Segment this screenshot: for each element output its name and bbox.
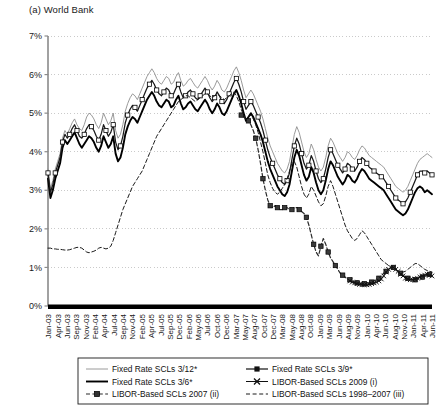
- svg-text:Jun-11: Jun-11: [428, 313, 437, 337]
- svg-text:Oct-06: Oct-06: [213, 313, 222, 338]
- legend-label: Fixed Rate SCLs 3/9*: [272, 364, 353, 374]
- svg-text:Nov-10: Nov-10: [400, 313, 409, 339]
- chart-legend[interactable]: Fixed Rate SCLs 3/12*Fixed Rate SCLs 3/9…: [78, 358, 428, 404]
- svg-text:Sep-05: Sep-05: [166, 313, 175, 339]
- svg-text:Feb-04: Feb-04: [91, 313, 100, 339]
- svg-text:Aug-10: Aug-10: [391, 313, 400, 339]
- svg-text:5%: 5%: [29, 108, 42, 118]
- legend-label: Fixed Rate SCLs 3/12*: [112, 364, 198, 374]
- svg-text:Jul-05: Jul-05: [157, 313, 166, 335]
- x-axis: Jan-03Apr-03Jun-03Sep-03Nov-03Feb-04Apr-…: [44, 305, 437, 341]
- svg-text:7%: 7%: [29, 31, 42, 41]
- svg-text:Dec-06: Dec-06: [222, 313, 231, 339]
- svg-text:Mar-07: Mar-07: [232, 313, 241, 339]
- svg-text:Feb-06: Feb-06: [185, 313, 194, 339]
- svg-text:Mar-09: Mar-09: [325, 313, 334, 339]
- svg-text:Apr-11: Apr-11: [419, 313, 428, 337]
- svg-text:Nov-09: Nov-09: [353, 313, 362, 339]
- svg-text:2%: 2%: [29, 224, 42, 234]
- svg-text:Sep-04: Sep-04: [119, 313, 128, 339]
- page-title: (a) World Bank: [29, 4, 94, 15]
- legend-label: Fixed Rate SCLs 3/6*: [112, 377, 193, 387]
- svg-text:Feb-05: Feb-05: [138, 313, 147, 339]
- series-2: [46, 76, 434, 206]
- svg-text:Jan-09: Jan-09: [316, 313, 325, 338]
- svg-text:Jan-10: Jan-10: [363, 313, 372, 338]
- svg-text:Aug-09: Aug-09: [344, 313, 353, 339]
- svg-text:Jul-06: Jul-06: [203, 313, 212, 335]
- svg-text:Apr-04: Apr-04: [100, 313, 109, 338]
- svg-text:Jun-03: Jun-03: [63, 313, 72, 338]
- legend-label: LIBOR-Based SCLs 1998–2007 (iii): [272, 389, 404, 399]
- svg-text:Nov-04: Nov-04: [128, 313, 137, 339]
- svg-text:May-06: May-06: [194, 313, 203, 340]
- series-lines: [46, 67, 434, 287]
- svg-text:Mar-08: Mar-08: [278, 313, 287, 339]
- svg-text:Jun-09: Jun-09: [335, 313, 344, 338]
- svg-text:Jun-10: Jun-10: [381, 313, 390, 338]
- legend-label: LIBOR-Based SCLs 2009 (i): [272, 377, 377, 387]
- chart-panel: (a) World Bank 0%1%2%3%4%5%6%7% Jan-03Ap…: [0, 0, 447, 406]
- svg-text:Jan-11: Jan-11: [409, 313, 418, 337]
- svg-text:Aug-08: Aug-08: [297, 313, 306, 339]
- svg-text:1%: 1%: [29, 263, 42, 273]
- svg-text:Jan-03: Jan-03: [44, 313, 53, 338]
- legend-label: LIBOR-Based SCLs 2007 (ii): [112, 389, 219, 399]
- svg-text:Aug-07: Aug-07: [250, 313, 259, 339]
- svg-text:Dec-07: Dec-07: [269, 313, 278, 339]
- svg-text:Sep-03: Sep-03: [72, 313, 81, 339]
- svg-text:Jul-04: Jul-04: [110, 313, 119, 335]
- svg-text:Apr-10: Apr-10: [372, 313, 381, 338]
- svg-text:Nov-03: Nov-03: [82, 313, 91, 339]
- svg-text:May-07: May-07: [241, 313, 250, 340]
- svg-text:3%: 3%: [29, 185, 42, 195]
- svg-text:6%: 6%: [29, 70, 42, 80]
- svg-text:Dec-05: Dec-05: [175, 313, 184, 339]
- svg-text:Oct-07: Oct-07: [260, 313, 269, 338]
- svg-text:May-08: May-08: [288, 313, 297, 340]
- svg-text:Apr-05: Apr-05: [147, 313, 156, 338]
- line-chart: 0%1%2%3%4%5%6%7% Jan-03Apr-03Jun-03Sep-0…: [0, 0, 447, 406]
- svg-text:Oct-08: Oct-08: [306, 313, 315, 338]
- series-1: [48, 90, 432, 215]
- y-axis: 0%1%2%3%4%5%6%7%: [29, 31, 48, 311]
- svg-text:Apr-03: Apr-03: [54, 313, 63, 338]
- svg-text:4%: 4%: [29, 147, 42, 157]
- svg-text:0%: 0%: [29, 301, 42, 311]
